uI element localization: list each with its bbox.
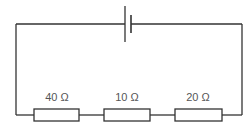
- resistor-20-ohm: [175, 109, 222, 121]
- resistor-label-20: 20 Ω: [186, 91, 210, 103]
- resistor-label-40: 40 Ω: [45, 91, 69, 103]
- resistor-40-ohm: [34, 109, 79, 121]
- resistor-label-10: 10 Ω: [115, 91, 139, 103]
- circuit-diagram: [0, 0, 252, 129]
- resistor-10-ohm: [104, 109, 150, 121]
